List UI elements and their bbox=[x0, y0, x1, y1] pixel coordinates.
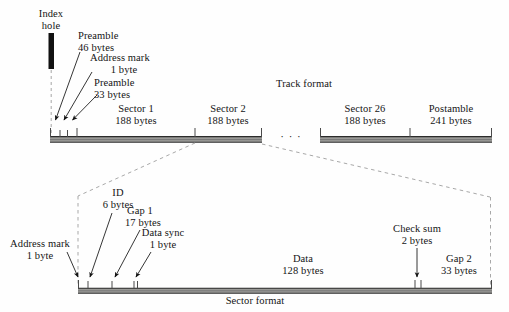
sector-field-gap-2-line2: 33 bytes bbox=[441, 265, 477, 277]
track-field-postamble-line2: 241 bytes bbox=[430, 115, 471, 127]
figure-disk-track-sector-format: Index hole Preamble 46 bytes Address mar… bbox=[0, 0, 509, 312]
track-bar-right-segment bbox=[320, 137, 492, 143]
sector-format-title: Sector format bbox=[226, 295, 285, 307]
sector-field-ticks bbox=[79, 280, 492, 288]
sector-callout-arrows bbox=[67, 213, 417, 277]
track-field-sector-1-line1: Sector 1 bbox=[118, 103, 154, 115]
callout-sector-address-mark-line1: Address mark bbox=[10, 238, 70, 250]
callout-check-sum-line2: 2 bytes bbox=[402, 235, 433, 247]
track-field-sector-26-line2: 188 bytes bbox=[344, 115, 385, 127]
callout-track-address-mark-line1: Address mark bbox=[90, 52, 150, 64]
callout-track-address-mark-line2: 1 byte bbox=[111, 64, 138, 76]
callout-data-sync-line2: 1 byte bbox=[150, 239, 177, 251]
sector-field-data-line1: Data bbox=[293, 253, 313, 265]
track-format-title: Track format bbox=[276, 78, 332, 90]
callout-gap-1-line1: Gap 1 bbox=[127, 205, 153, 217]
callout-preamble-46-line1: Preamble bbox=[78, 30, 118, 42]
callout-check-sum-line1: Check sum bbox=[393, 223, 441, 235]
callout-data-sync-line1: Data sync bbox=[142, 227, 185, 239]
callout-preamble-33-line1: Preamble bbox=[94, 77, 134, 89]
track-field-sector-1-line2: 188 bytes bbox=[115, 115, 156, 127]
track-field-sector-2-line1: Sector 2 bbox=[210, 103, 246, 115]
track-bar-left-segment bbox=[50, 137, 262, 143]
track-field-postamble-line1: Postamble bbox=[429, 103, 474, 115]
sector-field-gap-2-line1: Gap 2 bbox=[446, 253, 472, 265]
track-field-sector-26-line1: Sector 26 bbox=[345, 103, 386, 115]
index-hole-marker bbox=[49, 33, 55, 69]
sector-bar bbox=[78, 288, 492, 293]
callout-preamble-33-line2: 33 bytes bbox=[94, 89, 130, 101]
track-field-sector-2-line2: 188 bytes bbox=[207, 115, 248, 127]
callout-id-line1: ID bbox=[112, 187, 123, 199]
sector-field-data-line2: 128 bytes bbox=[282, 265, 323, 277]
track-field-ticks bbox=[51, 128, 492, 137]
index-hole-label-line2: hole bbox=[42, 20, 60, 32]
callout-sector-address-mark-line2: 1 byte bbox=[27, 250, 54, 262]
track-ellipsis: · · · bbox=[280, 130, 302, 142]
diagram-vector-layer bbox=[0, 0, 509, 312]
index-hole-label-line1: Index bbox=[39, 8, 63, 20]
